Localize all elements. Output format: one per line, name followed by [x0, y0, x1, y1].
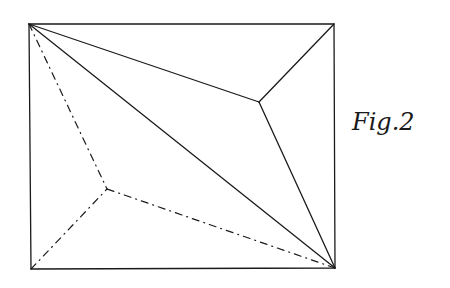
top-left-to-lower-inner-line: [29, 24, 107, 189]
bottom-left-to-lower-inner-line: [31, 189, 107, 269]
bottom-right-to-upper-inner-line: [259, 102, 335, 268]
diagonal-line: [29, 24, 335, 268]
top-right-to-upper-inner-line: [259, 24, 334, 102]
bottom-right-to-lower-inner-line: [107, 189, 335, 268]
solid-lines: [29, 24, 335, 268]
top-left-to-upper-inner-line: [29, 24, 259, 102]
geometric-diagram: [0, 0, 450, 288]
figure-label: Fig.2: [352, 108, 415, 136]
